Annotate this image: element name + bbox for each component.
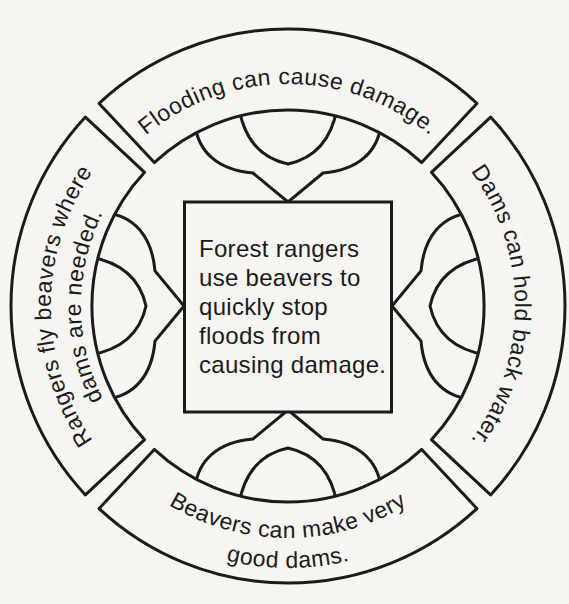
banner-right-shape	[431, 117, 565, 495]
center-text-line-4: floods from	[199, 322, 321, 349]
center-text-line-5: causing damage.	[199, 351, 386, 378]
center-text-line-3: quickly stop	[199, 293, 328, 320]
center-text-line-2: use beavers to	[199, 264, 361, 291]
center-text-line-1: Forest rangers	[199, 235, 359, 262]
diagram-canvas: Flooding can cause damage. Dams can hold…	[0, 0, 569, 604]
banner-top-shape	[99, 29, 477, 163]
concept-web-diagram: Flooding can cause damage. Dams can hold…	[0, 0, 569, 604]
